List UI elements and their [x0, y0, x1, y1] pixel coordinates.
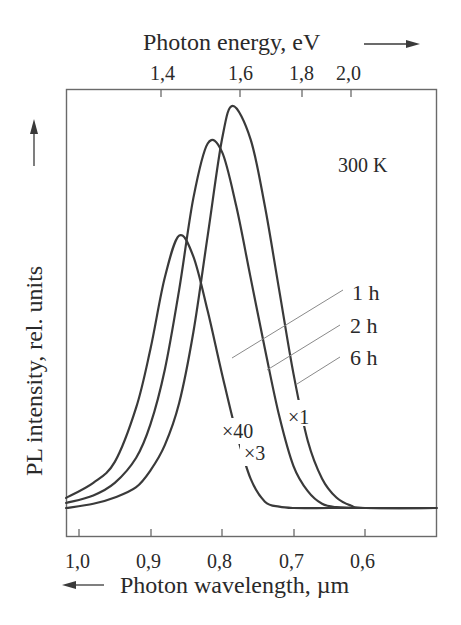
top-axis-title: Photon energy, eV — [143, 29, 321, 55]
bottom-axis-arrow-icon — [62, 581, 104, 589]
leader-1h — [232, 290, 343, 358]
bottom-axis-ticks: 1,0 0,9 0,8 0,7 0,6 — [65, 550, 375, 572]
top-axis-arrow-icon — [364, 40, 420, 48]
scale-label-x3: ×3 — [244, 442, 265, 464]
legend-label-1h: 1 h — [352, 280, 380, 305]
top-tick-label: 1,6 — [228, 62, 253, 84]
y-axis-title: PL intensity, rel. units — [21, 266, 47, 476]
bottom-tick-label: 0,6 — [350, 550, 375, 572]
legend-label-6h: 6 h — [350, 345, 378, 370]
bottom-tick-marks — [79, 529, 365, 536]
bottom-axis-title: Photon wavelength, µm — [120, 572, 349, 598]
top-tick-marks — [161, 90, 351, 97]
legend-label-2h: 2 h — [350, 313, 378, 338]
scale-label-x40: ×40 — [222, 420, 253, 442]
y-axis-arrow-icon — [30, 119, 38, 166]
top-axis-ticks: 1,4 1,6 1,8 2,0 — [150, 62, 361, 84]
scale-label-x1: ×1 — [288, 406, 309, 428]
temperature-label: 300 K — [338, 154, 388, 176]
chart-canvas: Photon energy, eV 1,4 1,6 1,8 2,0 1,0 0,… — [0, 0, 461, 625]
top-tick-label: 2,0 — [336, 62, 361, 84]
bottom-tick-label: 0,9 — [136, 550, 161, 572]
bottom-tick-label: 0,7 — [279, 550, 304, 572]
bottom-tick-label: 1,0 — [65, 550, 90, 572]
top-tick-label: 1,8 — [289, 62, 314, 84]
bottom-tick-label: 0,8 — [207, 550, 232, 572]
top-tick-label: 1,4 — [150, 62, 175, 84]
